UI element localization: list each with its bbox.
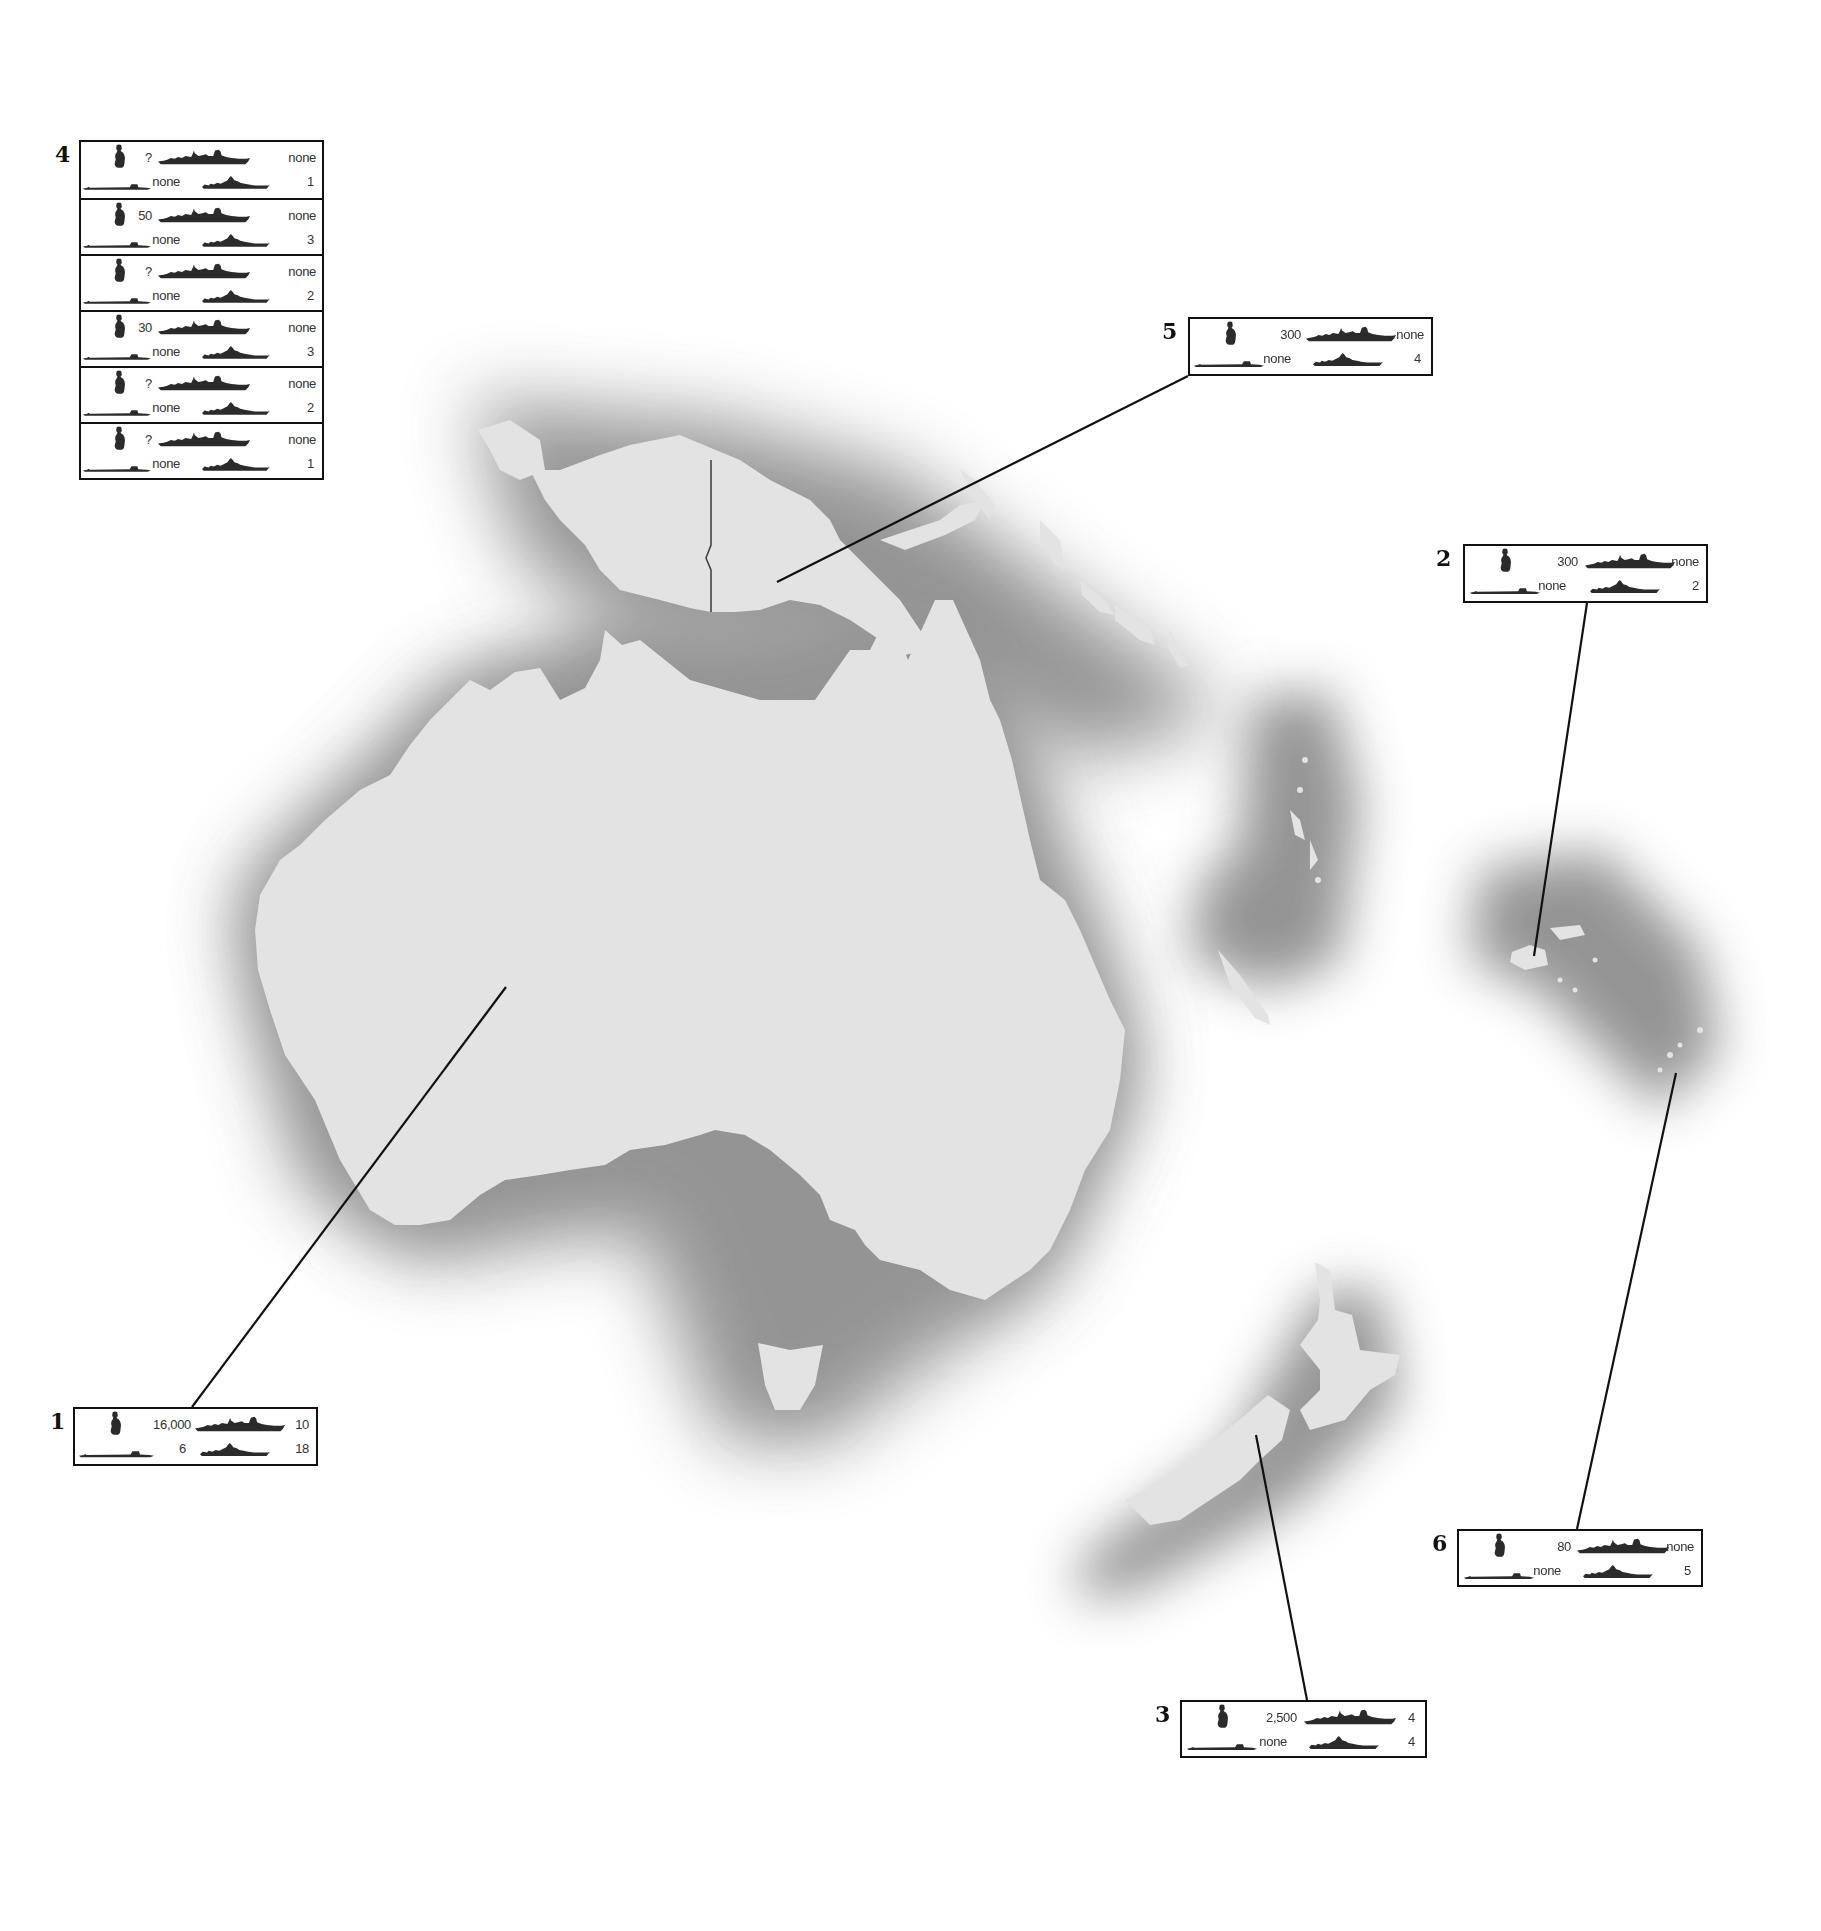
frigate-icon — [202, 399, 270, 417]
callout-number: 1 — [50, 1410, 65, 1432]
personnel-value: 2,500 — [1266, 1706, 1297, 1730]
soldier-icon — [112, 370, 126, 396]
callout-number: 5 — [1162, 320, 1177, 342]
personnel-value: ? — [145, 260, 152, 284]
submarine-icon — [83, 239, 151, 249]
soldier-icon — [1223, 321, 1237, 347]
frigates-value: 4 — [1414, 347, 1421, 371]
frigates-value: 5 — [1684, 1559, 1691, 1583]
soldier-icon — [1498, 548, 1512, 574]
soldier-icon — [112, 426, 126, 452]
warship-icon — [158, 373, 250, 393]
stats-cell: 2,500 4 none 4 — [1182, 1702, 1425, 1758]
submarines-value: none — [152, 340, 180, 364]
stats-box: 300 none none 2 — [1463, 544, 1708, 603]
submarines-value: none — [1259, 1730, 1287, 1754]
soldier-icon — [112, 144, 126, 170]
frigates-value: 18 — [295, 1437, 309, 1461]
personnel-value: 50 — [138, 204, 152, 228]
frigates-value: 1 — [307, 452, 314, 476]
callout-number: 4 — [55, 143, 70, 165]
major-warships-value: none — [288, 316, 316, 340]
submarines-value: none — [1533, 1559, 1561, 1583]
submarines-value: none — [152, 452, 180, 476]
soldier-icon — [112, 314, 126, 340]
major-warships-value: 4 — [1408, 1706, 1415, 1730]
stats-box: 2,500 4 none 4 — [1180, 1700, 1427, 1758]
frigates-value: 2 — [307, 396, 314, 420]
frigate-icon — [1590, 577, 1660, 595]
frigate-icon — [202, 231, 270, 249]
frigate-icon — [202, 287, 270, 305]
stats-cell: 300 none none 4 — [1190, 319, 1431, 375]
submarine-icon — [83, 295, 151, 305]
submarine-icon — [83, 463, 151, 473]
submarines-value: none — [152, 170, 180, 194]
major-warships-value: none — [288, 372, 316, 396]
personnel-value: 80 — [1557, 1535, 1571, 1559]
submarine-icon — [79, 1448, 154, 1458]
submarines-value: none — [152, 396, 180, 420]
stats-cell: ?nonenone1 — [81, 142, 322, 198]
submarines-value: none — [1538, 574, 1566, 598]
warship-icon — [158, 147, 250, 167]
soldier-icon — [112, 202, 126, 228]
stats-stack: ?nonenone150nonenone3?nonenone230nonenon… — [81, 142, 322, 478]
major-warships-value: none — [1671, 550, 1699, 574]
submarines-value: none — [152, 284, 180, 308]
callout-number: 3 — [1155, 1703, 1170, 1725]
major-warships-value: none — [1396, 323, 1424, 347]
personnel-value: ? — [145, 372, 152, 396]
warship-icon — [158, 205, 250, 225]
submarine-icon — [83, 407, 151, 417]
frigate-icon — [1583, 1562, 1653, 1580]
submarine-icon — [1194, 358, 1264, 368]
frigate-icon — [202, 455, 270, 473]
submarine-icon — [1187, 1741, 1257, 1751]
stats-cell: ?nonenone2 — [81, 254, 322, 310]
stats-cell: ?nonenone2 — [81, 366, 322, 422]
personnel-value: 300 — [1557, 550, 1578, 574]
stats-box: 80 none none 5 — [1457, 1529, 1703, 1587]
stats-cell: 50nonenone3 — [81, 198, 322, 254]
warship-icon — [158, 429, 250, 449]
major-warships-value: 10 — [295, 1413, 309, 1437]
personnel-value: 30 — [138, 316, 152, 340]
submarines-value: none — [152, 228, 180, 252]
soldier-icon — [108, 1411, 122, 1437]
personnel-value: 16,000 — [153, 1413, 191, 1437]
frigate-icon — [202, 173, 270, 191]
frigates-value: 2 — [307, 284, 314, 308]
personnel-value: ? — [145, 146, 152, 170]
soldier-icon — [1215, 1704, 1229, 1730]
personnel-value: 300 — [1280, 323, 1301, 347]
submarine-icon — [1470, 585, 1540, 595]
major-warships-value: none — [288, 146, 316, 170]
frigates-value: 1 — [307, 170, 314, 194]
submarines-value: 6 — [179, 1437, 186, 1461]
callout-number: 6 — [1432, 1532, 1447, 1554]
major-warships-value: none — [1666, 1535, 1694, 1559]
submarines-value: none — [1263, 347, 1291, 371]
frigate-icon — [202, 343, 270, 361]
frigates-value: 3 — [307, 228, 314, 252]
stats-box: 16,000 10 6 18 — [73, 1407, 318, 1466]
soldier-icon — [112, 258, 126, 284]
frigate-icon — [200, 1440, 270, 1458]
callout-number: 2 — [1436, 547, 1451, 569]
warship-icon — [1577, 1536, 1669, 1556]
frigates-value: 2 — [1692, 574, 1699, 598]
frigates-value: 3 — [307, 340, 314, 364]
warship-icon — [158, 317, 250, 337]
stats-cell: 16,000 10 6 18 — [75, 1409, 316, 1465]
stats-cell: 300 none none 2 — [1465, 546, 1706, 602]
leader-line-6 — [1577, 1073, 1676, 1529]
stats-cell: ?nonenone1 — [81, 422, 322, 478]
frigates-value: 4 — [1408, 1730, 1415, 1754]
submarine-icon — [83, 351, 151, 361]
frigate-icon — [1309, 1733, 1379, 1751]
stats-cell: 30nonenone3 — [81, 310, 322, 366]
stats-box: 300 none none 4 — [1188, 317, 1433, 376]
personnel-value: ? — [145, 428, 152, 452]
submarine-icon — [1464, 1570, 1534, 1580]
